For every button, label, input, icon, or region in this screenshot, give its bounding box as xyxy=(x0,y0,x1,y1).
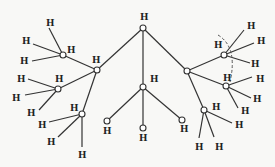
bond-line xyxy=(32,55,63,61)
atom-node xyxy=(140,84,146,90)
hydrogen-label: H xyxy=(47,137,56,147)
bond-line xyxy=(97,28,143,70)
atom-node xyxy=(179,117,185,123)
hydrogen-label: H xyxy=(180,124,189,134)
hydrogen-label: H xyxy=(27,108,36,118)
hydrogen-label: H xyxy=(241,106,250,116)
hydrogen-label: H xyxy=(140,12,149,22)
hydrogen-label: H xyxy=(70,103,79,113)
hydrogen-label: H xyxy=(251,59,260,69)
hydrogen-label: H xyxy=(20,56,29,66)
hydrogen-label: H xyxy=(247,21,256,31)
hydrogen-label: H xyxy=(139,133,148,143)
bond-line xyxy=(187,55,224,71)
molecule-svg: HHHHHHHHHHHHHHHHHHHHHHHHHHHHHH xyxy=(0,0,275,167)
atom-node xyxy=(79,111,85,117)
molecule-diagram: HHHHHHHHHHHHHHHHHHHHHHHHHHHHHH xyxy=(0,0,275,167)
atom-node xyxy=(60,52,66,58)
hydrogen-label: H xyxy=(150,74,159,84)
hydrogen-label: H xyxy=(235,120,244,130)
hydrogen-label: H xyxy=(256,74,265,84)
bond-line xyxy=(143,87,182,120)
hydrogen-label: H xyxy=(92,55,101,65)
atom-node xyxy=(94,67,100,73)
hydrogen-label: H xyxy=(22,36,31,46)
hydrogen-label: H xyxy=(38,120,47,130)
bond-line xyxy=(107,87,143,121)
hydrogen-label: H xyxy=(253,94,262,104)
atom-node xyxy=(140,125,146,131)
hydrogen-label: H xyxy=(223,73,232,83)
hydrogen-label: H xyxy=(212,102,221,112)
atom-node xyxy=(221,52,227,58)
hydrogen-label: H xyxy=(215,142,224,152)
bond-line xyxy=(28,79,58,89)
atom-node xyxy=(140,25,146,31)
bond-line xyxy=(224,55,250,63)
hydrogen-label: H xyxy=(17,74,26,84)
atom-node xyxy=(104,118,110,124)
bond-line xyxy=(199,110,204,138)
hydrogen-label: H xyxy=(67,45,76,55)
hydrogen-label: H xyxy=(78,150,87,160)
hydrogen-label: H xyxy=(195,142,204,152)
hydrogen-label: H xyxy=(46,18,55,28)
hydrogen-label: H xyxy=(55,74,64,84)
hydrogen-label: H xyxy=(103,126,112,136)
atom-node xyxy=(223,83,229,89)
hydrogen-label: H xyxy=(214,40,223,50)
hydrogen-label: H xyxy=(257,36,266,46)
atom-node xyxy=(184,68,190,74)
atom-node xyxy=(55,86,61,92)
atom-node xyxy=(201,107,207,113)
bond-line xyxy=(143,28,187,71)
hydrogen-label: H xyxy=(12,93,21,103)
